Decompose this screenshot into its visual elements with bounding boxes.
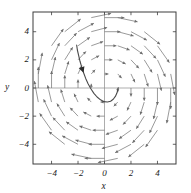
x-tick-label: −4	[47, 169, 57, 178]
y-axis-label: y	[5, 83, 9, 93]
x-tick-label: −2	[73, 169, 83, 178]
x-tick-label: 2	[126, 169, 136, 178]
x-tick-label: 0	[100, 169, 110, 178]
y-tick-label: −4	[16, 140, 29, 149]
axis-crosshair-lines	[33, 12, 176, 164]
y-tick-label: −2	[16, 112, 29, 121]
direction-field-figure: x y −4−2024 420−2−4	[0, 0, 191, 193]
solution-curve	[77, 45, 119, 102]
y-tick-label: 4	[16, 27, 29, 36]
x-tick-label: 4	[152, 169, 162, 178]
x-axis-label: x	[102, 182, 106, 192]
y-tick-label: 2	[16, 55, 29, 64]
y-tick-label: 0	[16, 84, 29, 93]
